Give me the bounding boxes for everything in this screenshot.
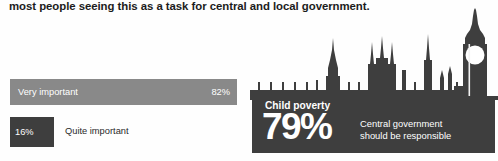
stat-figure: 79% xyxy=(262,107,331,147)
bar-very-important: Very important 82% xyxy=(10,79,237,105)
stat-description-line2: should be responsible xyxy=(360,130,451,142)
bar-very-important-value: 82% xyxy=(211,87,230,98)
infographic-panel: most people seeing this as a task for ce… xyxy=(0,0,498,161)
stat-callout: Child poverty 79% Central government sho… xyxy=(252,96,495,153)
houses-of-parliament-icon xyxy=(250,8,498,100)
bar-quite-important: 16% xyxy=(10,117,54,147)
stat-description-line1: Central government xyxy=(360,118,451,130)
bar-very-important-label: Very important xyxy=(18,87,78,98)
stat-description: Central government should be responsible xyxy=(360,118,451,142)
bar-quite-important-label: Quite important xyxy=(65,126,129,137)
illustration-panel: Child poverty 79% Central government sho… xyxy=(250,0,498,161)
bar-chart: Very important 82% 16% Quite important xyxy=(0,0,250,161)
bar-quite-important-value: 16% xyxy=(15,127,34,138)
